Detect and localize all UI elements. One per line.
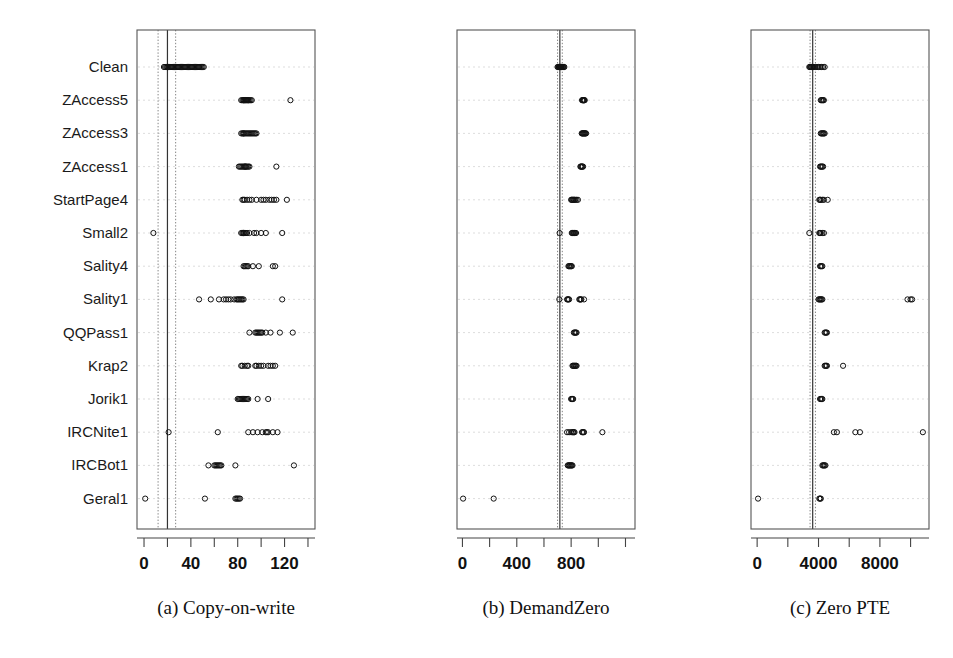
series-zaccess1	[236, 164, 279, 169]
plot-frame	[751, 30, 929, 529]
x-tick-label: 4000	[800, 554, 838, 573]
row-label-krap2: Krap2	[88, 357, 128, 374]
series-startpage4	[569, 197, 581, 202]
panel-caption-1: (a) Copy-on-write	[157, 597, 295, 619]
series-sality4	[566, 264, 575, 269]
three-panel-dotplot: CleanZAccess5ZAccess3ZAccess1StartPage4S…	[0, 0, 953, 658]
row-label-sality4: Sality4	[83, 257, 128, 274]
series-ircbot1	[565, 463, 575, 468]
series-krap2	[239, 363, 278, 368]
series-sality4	[817, 264, 825, 269]
series-jorik1	[569, 396, 576, 401]
panel-1: 04080120	[137, 30, 315, 573]
series-qqpass1	[822, 330, 830, 335]
panel-caption-3: (c) Zero PTE	[790, 597, 890, 619]
row-label-zaccess5: ZAccess5	[62, 91, 128, 108]
series-zaccess3	[579, 131, 589, 136]
x-tick-label: 0	[752, 554, 761, 573]
row-label-clean: Clean	[89, 58, 128, 75]
series-zaccess1	[578, 164, 586, 169]
series-clean	[161, 64, 206, 69]
row-label-qqpass1: QQPass1	[63, 324, 128, 341]
row-label-startpage4: StartPage4	[53, 191, 128, 208]
series-ircbot1	[206, 463, 297, 468]
x-tick-label: 400	[503, 554, 531, 573]
series-qqpass1	[571, 330, 579, 335]
x-tick-label: 800	[557, 554, 585, 573]
row-label-small2: Small2	[82, 224, 128, 241]
series-jorik1	[235, 396, 271, 401]
panel-3: 040008000	[751, 30, 929, 573]
row-label-ircbot1: IRCBot1	[71, 456, 128, 473]
series-jorik1	[817, 396, 825, 401]
x-tick-label: 8000	[861, 554, 899, 573]
plot-frame	[137, 30, 315, 529]
row-label-zaccess3: ZAccess3	[62, 124, 128, 141]
series-clean	[807, 64, 828, 69]
panel-caption-2: (b) DemandZero	[482, 597, 609, 619]
panel-2: 0400800	[457, 30, 635, 573]
series-zaccess1	[817, 164, 825, 169]
series-sality1	[557, 297, 587, 302]
row-label-sality1: Sality1	[83, 290, 128, 307]
x-tick-label: 40	[181, 554, 200, 573]
series-clean	[555, 64, 567, 69]
x-tick-label: 120	[270, 554, 298, 573]
row-label-zaccess1: ZAccess1	[62, 158, 128, 175]
plot-frame	[457, 30, 635, 529]
x-tick-label: 0	[458, 554, 467, 573]
series-sality1	[816, 297, 915, 302]
row-label-geral1: Geral1	[83, 490, 128, 507]
row-label-ircnite1: IRCNite1	[67, 423, 128, 440]
series-geral1	[143, 496, 243, 501]
figure-container: CleanZAccess5ZAccess3ZAccess1StartPage4S…	[0, 0, 953, 658]
x-tick-label: 80	[228, 554, 247, 573]
x-tick-label: 0	[139, 554, 148, 573]
row-label-jorik1: Jorik1	[88, 390, 128, 407]
series-zaccess3	[239, 131, 259, 136]
